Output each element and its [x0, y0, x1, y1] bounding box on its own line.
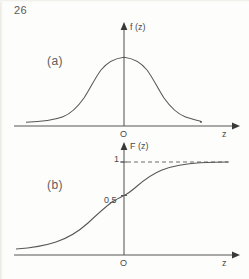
x-axis-arrow-b	[232, 252, 240, 259]
scan-edge-top	[0, 0, 249, 2]
figure-a-pdf: (a) f (z) O z	[0, 18, 249, 138]
cdf-curve-path	[16, 162, 228, 249]
y-tick-label-half: 0.5	[104, 195, 117, 205]
x-axis-label-b: z	[222, 258, 227, 268]
figure-b-cdf: (b) F (z) 1 0.5 O z	[0, 138, 249, 270]
y-axis-label-a: f (z)	[130, 22, 146, 32]
y-axis-label-b: F (z)	[130, 141, 149, 151]
page-number: 26	[14, 4, 27, 16]
y-axis-arrow-a	[121, 22, 128, 30]
y-axis-arrow-b	[121, 142, 128, 150]
scanned-page: 26 (a) f (z) O z (b) F (z) 1 0.5 O z	[0, 0, 249, 279]
plot-area-a	[0, 18, 249, 138]
plot-area-b	[0, 138, 249, 270]
panel-label-b: (b)	[47, 178, 63, 192]
origin-label-b: O	[120, 258, 127, 268]
y-tick-label-one: 1	[114, 154, 119, 164]
panel-label-a: (a)	[47, 54, 63, 68]
x-axis-arrow-a	[232, 123, 240, 130]
